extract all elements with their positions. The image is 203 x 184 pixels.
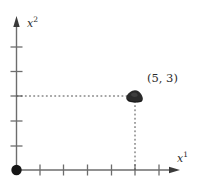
x-axis-label-superscript: 1 — [183, 150, 188, 159]
x-axis-label: x1 — [177, 151, 188, 164]
y-axis-arrowhead — [13, 16, 19, 27]
x-axis-arrowhead — [169, 167, 180, 173]
data-point-blob[interactable] — [126, 90, 143, 102]
coordinate-plot-figure: x2 x1 (5, 3) — [0, 0, 203, 184]
origin-dot — [11, 165, 21, 175]
y-axis-label-superscript: 2 — [33, 15, 38, 24]
y-axis-label: x2 — [27, 16, 38, 29]
point-coordinate-label: (5, 3) — [147, 73, 178, 85]
